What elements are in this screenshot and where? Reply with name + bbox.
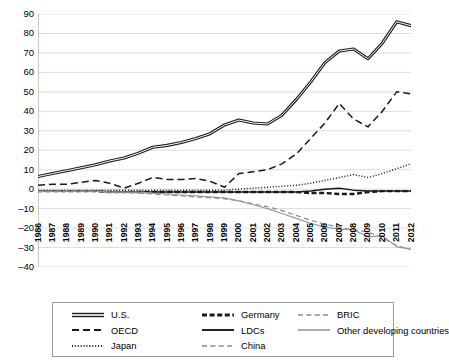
y-axis-tick: 20 [4,145,34,155]
legend-swatch-icon [71,324,105,336]
x-axis-tick: 1990 [91,223,100,242]
x-axis-tick: 1998 [206,223,215,242]
y-axis-tick: –30 [4,243,34,253]
x-axis-tick: 1989 [77,223,86,242]
x-axis-tick: 2004 [292,223,301,242]
y-axis-tick: 80 [4,29,34,39]
x-axis-tick: 2003 [277,223,286,242]
legend-item[interactable]: LDCs [201,323,280,339]
legend-column: BRICOther developing countries [297,307,449,338]
legend-swatch-icon [201,309,235,321]
legend-column: U.S.OECDJapan [71,307,138,354]
y-axis-tick: –20 [4,223,34,233]
y-axis-tick: 10 [4,165,34,175]
legend-column: GermanyLDCsChina [201,307,280,354]
y-axis-labels: 9080706050403020100–10–20–30–40 [0,14,34,267]
y-axis-tick: –10 [4,204,34,214]
legend-label: Other developing countries [337,326,449,335]
x-axis-tick: 2002 [263,223,272,242]
legend-label: U.S. [111,310,129,319]
x-axis-tick: 2008 [349,223,358,242]
x-axis-tick: 1994 [148,223,157,242]
legend-swatch-icon [201,340,235,352]
y-axis-tick: 0 [4,184,34,194]
x-axis-tick: 2007 [335,223,344,242]
x-axis-tick: 1987 [48,223,57,242]
x-axis-tick: 2001 [249,223,258,242]
x-axis-tick: 2006 [320,223,329,242]
x-axis-tick: 2012 [407,223,416,242]
y-axis-tick: 40 [4,107,34,117]
x-axis-tick: 1999 [220,223,229,242]
x-axis-tick: 1986 [34,223,43,242]
y-axis-tick: 90 [4,9,34,19]
x-axis-tick: 1996 [177,223,186,242]
x-axis-tick: 1995 [163,223,172,242]
y-axis-tick: 50 [4,87,34,97]
x-axis-tick: 1997 [191,223,200,242]
legend-item[interactable]: U.S. [71,307,138,323]
legend-label: LDCs [241,326,264,335]
legend-label: OECD [111,326,138,335]
chart-legend: U.S.OECDJapanGermanyLDCsChinaBRICOther d… [52,302,394,357]
y-axis-tick: –40 [4,262,34,272]
series-line [38,22,411,177]
legend-item[interactable]: China [201,338,280,354]
legend-swatch-icon [71,309,105,321]
x-axis-tick: 1991 [105,223,114,242]
x-axis-tick: 1993 [134,223,143,242]
y-axis-tick: 30 [4,126,34,136]
legend-swatch-icon [297,309,331,321]
x-axis-tick: 2000 [234,223,243,242]
x-axis-tick: 2011 [392,223,401,242]
legend-item[interactable]: OECD [71,323,138,339]
legend-swatch-icon [71,340,105,352]
legend-label: China [241,341,266,350]
legend-label: BRIC [337,310,359,319]
legend-item[interactable]: Other developing countries [297,323,449,339]
x-axis-tick: 2010 [378,223,387,242]
x-axis-tick: 1988 [62,223,71,242]
legend-item[interactable]: Germany [201,307,280,323]
legend-swatch-icon [297,324,331,336]
series-line [38,92,411,188]
legend-item[interactable]: Japan [71,338,138,354]
legend-swatch-icon [201,324,235,336]
y-axis-tick: 70 [4,48,34,58]
x-axis-labels: 1986198719881989199019911992199319941995… [38,196,411,242]
x-axis-tick: 1992 [120,223,129,242]
y-axis-tick: 60 [4,68,34,78]
legend-label: Japan [111,341,137,350]
x-axis-tick: 2009 [363,223,372,242]
legend-label: Germany [241,310,280,319]
x-axis-tick: 2005 [306,223,315,242]
legend-item[interactable]: BRIC [297,307,449,323]
